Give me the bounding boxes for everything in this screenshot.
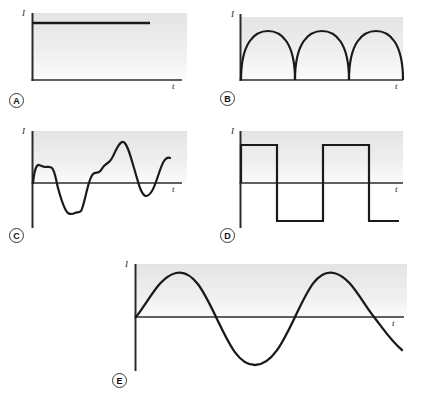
panel-d-plot (213, 118, 427, 246)
panel-badge-a: A (9, 93, 24, 108)
shaded-band (240, 131, 403, 183)
panel-e-y-axis-label: I (125, 260, 128, 269)
footer-strip (0, 396, 427, 405)
panel-a-x-axis-label: t (172, 82, 175, 91)
panel-e-plot (104, 246, 427, 396)
panel-d: I t D (213, 118, 427, 246)
panel-e: I t E (104, 246, 427, 396)
panel-d-x-axis-label: t (395, 185, 398, 194)
panel-c: I t C (0, 118, 213, 246)
panel-c-x-axis-label: t (172, 185, 175, 194)
panel-a: I t A (0, 0, 213, 118)
panel-c-y-axis-label: I (22, 127, 25, 136)
shaded-band (240, 17, 403, 80)
panel-b-x-axis-label: t (395, 82, 398, 91)
panel-e-x-axis-label: t (392, 319, 395, 328)
panel-b: I t B (213, 0, 427, 118)
panel-a-y-axis-label: I (22, 9, 25, 18)
panel-badge-c: C (9, 228, 24, 243)
panel-c-plot (0, 118, 213, 246)
panel-b-y-axis-label: I (231, 10, 234, 19)
panel-d-y-axis-label: I (231, 127, 234, 136)
panel-badge-d: D (220, 228, 235, 243)
waveform-figure: I t A I t B (0, 0, 427, 405)
panel-badge-e: E (112, 373, 127, 388)
panel-badge-b: B (220, 91, 235, 106)
panel-b-plot (213, 0, 427, 118)
panel-a-plot (0, 0, 213, 118)
